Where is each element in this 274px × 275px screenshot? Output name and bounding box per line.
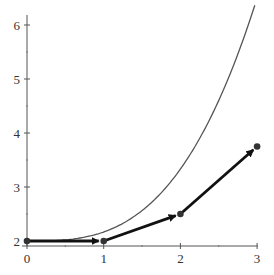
x-tick-label: 2 xyxy=(177,251,184,266)
x-tick-label: 3 xyxy=(254,251,261,266)
chart: 23456 0123 xyxy=(0,0,274,275)
y-tick-label: 5 xyxy=(14,72,21,87)
x-tick-label: 1 xyxy=(100,251,107,266)
y-tick-label: 4 xyxy=(14,126,21,141)
x-tick-label: 0 xyxy=(24,251,31,266)
y-tick-label: 3 xyxy=(14,180,21,195)
euler-point xyxy=(254,143,261,150)
y-ticks: 23456 xyxy=(14,18,31,249)
y-tick-label: 6 xyxy=(14,18,21,33)
y-tick-label: 2 xyxy=(14,234,21,249)
euler-point xyxy=(100,238,107,245)
euler-point xyxy=(24,238,31,245)
exact-solution-curve xyxy=(27,5,255,241)
euler-step-arrow xyxy=(180,150,253,214)
euler-point xyxy=(177,211,184,218)
euler-approximation xyxy=(24,143,261,244)
